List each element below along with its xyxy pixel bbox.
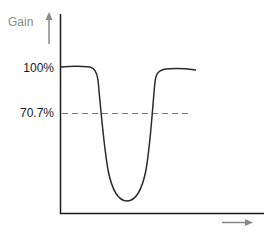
gain-chart: Gain 100% 70.7% — [0, 0, 280, 232]
y-tick-100: 100% — [23, 61, 54, 75]
y-axis-label: Gain — [8, 15, 33, 29]
y-arrow-icon — [46, 12, 53, 44]
y-tick-70-7: 70.7% — [20, 106, 54, 120]
x-arrow-icon — [222, 219, 253, 226]
gain-curve — [61, 66, 196, 201]
